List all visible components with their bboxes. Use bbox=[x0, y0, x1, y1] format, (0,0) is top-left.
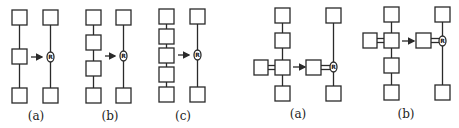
panel-label-a: (a) bbox=[28, 109, 45, 123]
panel-label-right-b: (b) bbox=[397, 107, 414, 121]
node-label: R bbox=[440, 37, 445, 44]
panel-label-right-a: (a) bbox=[290, 107, 307, 121]
node-label: R bbox=[121, 52, 126, 59]
node-label: R bbox=[331, 63, 336, 70]
node-label: R bbox=[48, 53, 53, 60]
panel-right-b bbox=[363, 7, 450, 100]
panel-label-c: (c) bbox=[175, 109, 191, 123]
coarse-graining-diagram: R R R R R (a) (b) (c) (a) (b) bbox=[0, 0, 459, 128]
node-label: R bbox=[195, 51, 200, 58]
panel-label-b: (b) bbox=[101, 109, 118, 123]
panel-right-a bbox=[254, 8, 341, 101]
